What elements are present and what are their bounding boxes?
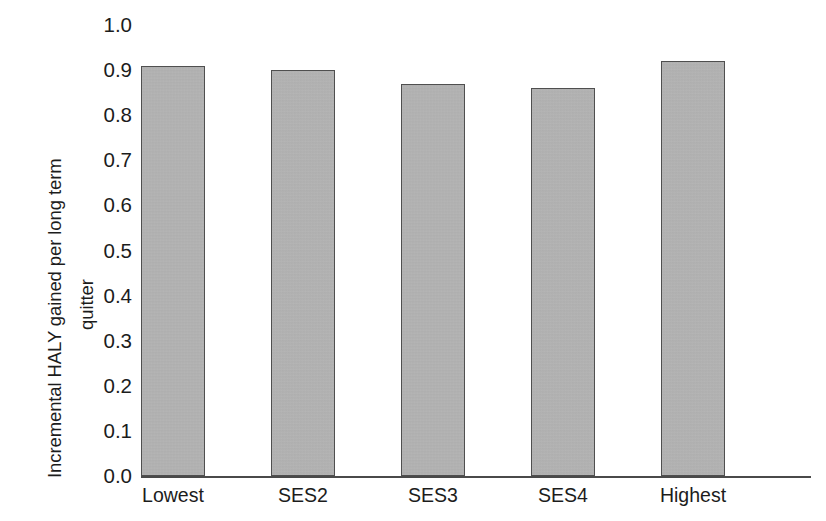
y-axis-tick-label: 0.4 [86, 286, 132, 306]
y-axis-tick-label: 0.9 [86, 60, 132, 80]
y-axis-title-line-1: Incremental HALY gained per long term [44, 158, 66, 478]
bar-ses3 [401, 84, 465, 476]
y-axis-title: Incremental HALY gained per long term qu… [0, 0, 92, 500]
y-axis-tick-label: 0.0 [86, 466, 132, 486]
bar-lowest [141, 66, 205, 476]
plot-area [141, 0, 811, 521]
y-axis-tick-label: 0.7 [86, 150, 132, 170]
y-axis-tick-label: 0.5 [86, 241, 132, 261]
x-axis-tick-label-highest: Highest [613, 484, 773, 507]
x-axis-line [141, 476, 811, 478]
bar-highest [661, 61, 725, 476]
y-axis-tick-label: 0.6 [86, 195, 132, 215]
bar-chart: Incremental HALY gained per long term qu… [0, 0, 826, 521]
bar-ses4 [531, 88, 595, 476]
y-axis-tick-label: 0.3 [86, 331, 132, 351]
y-axis-tick-label: 1.0 [86, 15, 132, 35]
y-axis-tick-label: 0.8 [86, 105, 132, 125]
y-axis-tick-label: 0.2 [86, 376, 132, 396]
bar-ses2 [271, 70, 335, 476]
y-axis-tick-labels: 1.00.90.80.70.60.50.40.30.20.10.0 [86, 0, 132, 521]
y-axis-tick-label: 0.1 [86, 421, 132, 441]
